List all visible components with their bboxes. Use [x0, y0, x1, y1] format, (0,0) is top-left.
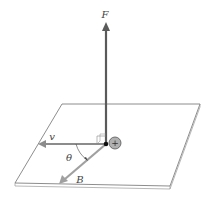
field-label: B — [75, 174, 83, 185]
origin-point — [104, 142, 109, 147]
diagram-canvas: + F v B θ — [0, 0, 214, 206]
velocity-label: v — [49, 131, 55, 142]
force-label: F — [101, 9, 110, 20]
positive-charge-icon: + — [109, 137, 121, 149]
charge-label: + — [111, 138, 119, 148]
angle-label: θ — [66, 152, 72, 163]
vector-diagram: + F v B θ — [0, 0, 214, 206]
plane — [15, 104, 200, 189]
